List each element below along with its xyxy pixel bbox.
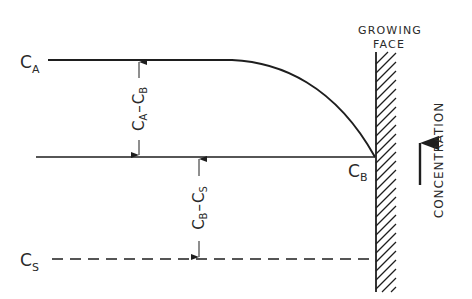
dimension-cb-minus-cs: CB–CS (190, 159, 209, 257)
svg-text:C: C (348, 161, 360, 181)
svg-text:C: C (20, 250, 32, 270)
label-cs: C S (20, 250, 39, 274)
label-cb: C B (348, 161, 368, 184)
svg-text:CA–CB: CA–CB (130, 87, 149, 131)
svg-text:A: A (32, 63, 40, 76)
dimension-ca-minus-cb: CA–CB (130, 62, 149, 155)
concentration-profile-curve (48, 60, 375, 157)
svg-text:CB–CS: CB–CS (190, 186, 209, 230)
growing-face-label-line1: GROWING (358, 24, 422, 37)
growing-face-label-line2: FACE (373, 38, 405, 51)
growing-face-hatching (376, 52, 396, 292)
concentration-label: CONCENTRATION (432, 102, 446, 219)
svg-text:S: S (32, 261, 39, 274)
label-ca: C A (20, 52, 40, 76)
svg-text:B: B (360, 171, 368, 184)
svg-text:C: C (20, 52, 32, 72)
concentration-profile-diagram: C A C S C B GROWING FACE CONCENTRATION C… (0, 0, 472, 299)
